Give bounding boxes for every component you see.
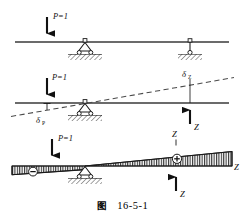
load-label-middle: P=1 [51, 73, 67, 82]
sign-badge-positive [172, 154, 181, 163]
figure-container: P=1 [0, 0, 245, 223]
delta-p-label: δ P [36, 115, 45, 127]
deflection-dashed-line [11, 78, 234, 117]
caption-label: 图 [97, 200, 108, 211]
sign-badge-negative [29, 167, 38, 176]
load-label-top: P=1 [52, 12, 68, 21]
svg-text:δ: δ [182, 69, 187, 79]
panel-bottom: P=1 Z Z Z [12, 129, 239, 199]
panel-top: P=1 [15, 12, 229, 60]
caption-number: 16-5-1 [117, 200, 148, 211]
figure-caption: 图 16-5-1 [0, 198, 245, 212]
structural-diagram: P=1 [0, 0, 245, 223]
svg-text:Z: Z [188, 74, 192, 80]
svg-text:δ: δ [36, 115, 41, 125]
panel-middle: P=1 δ P δ Z Z [11, 69, 234, 132]
load-label-bottom: P=1 [57, 134, 73, 143]
z-right-label: Z [234, 162, 239, 172]
delta-z-label: δ Z [182, 69, 192, 80]
svg-text:P: P [42, 120, 45, 126]
reaction-label-middle: Z [194, 122, 199, 132]
z-top-label: Z [172, 129, 177, 139]
